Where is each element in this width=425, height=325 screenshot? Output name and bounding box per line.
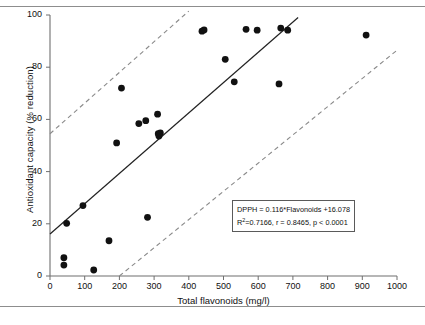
data-points: [60, 25, 369, 274]
data-point: [276, 81, 283, 88]
data-point: [113, 139, 120, 146]
upper-prediction-band: [50, 11, 189, 134]
data-point: [90, 267, 97, 274]
data-point: [222, 56, 229, 63]
prediction-bands: [50, 11, 397, 276]
data-point: [231, 78, 238, 85]
data-point: [106, 237, 113, 244]
scatter-plot: Antioxidant capacity (% reduction) Total…: [0, 0, 425, 325]
y-axis-ticks: [46, 15, 50, 276]
data-point: [157, 130, 164, 137]
annotation-stats-rest: =0.7166, r = 0.8465, p < 0.0001: [245, 218, 347, 227]
data-point: [363, 32, 370, 39]
y-tick-label: 40: [16, 166, 42, 176]
data-point: [243, 26, 250, 33]
data-point: [154, 111, 161, 118]
data-point: [63, 220, 70, 227]
y-tick-label: 0: [16, 270, 42, 280]
data-point: [254, 27, 261, 34]
axes: [46, 15, 397, 280]
annotation-equation: DPPH = 0.116*Flavonoids +16.078: [237, 204, 350, 215]
y-tick-label: 80: [16, 61, 42, 71]
data-point: [142, 117, 149, 124]
data-point: [284, 27, 291, 34]
y-tick-label: 100: [16, 9, 42, 19]
lower-prediction-band: [119, 50, 397, 276]
y-tick-label: 60: [16, 113, 42, 123]
data-point: [277, 25, 284, 32]
data-point: [118, 85, 125, 92]
data-point: [60, 254, 67, 261]
data-point: [144, 214, 151, 221]
x-axis-label: Total flavonoids (mg/l): [50, 295, 397, 306]
data-point: [80, 202, 87, 209]
x-tick-label: 1000: [377, 281, 417, 291]
data-point: [60, 262, 67, 269]
regression-annotation-box: DPPH = 0.116*Flavonoids +16.078 R2=0.716…: [232, 200, 355, 232]
x-axis-ticks: [50, 276, 397, 280]
figure-container: Antioxidant capacity (% reduction) Total…: [0, 0, 425, 325]
plot-svg: [0, 0, 425, 325]
data-point: [201, 26, 208, 33]
data-point: [135, 120, 142, 127]
annotation-statistics: R2=0.7166, r = 0.8465, p < 0.0001: [237, 215, 350, 228]
y-tick-label: 20: [16, 218, 42, 228]
